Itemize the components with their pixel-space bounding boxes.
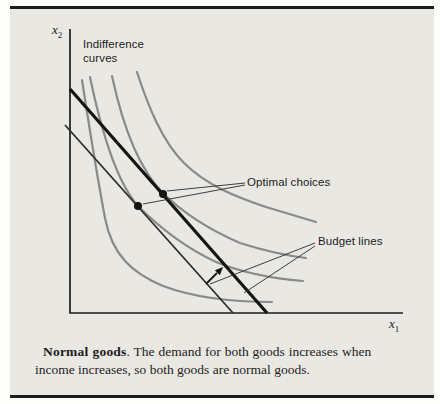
x-axis-label: x1 [389,316,399,332]
indifference-curve-3 [112,76,306,258]
caption-term: Normal goods [43,344,127,359]
indifference-curves-label: Indifference curves [83,38,144,65]
caption-line-2: income increases, so both goods are norm… [35,361,401,379]
optimal-choices-label: Optimal choices [247,176,330,190]
axes [70,29,403,313]
y-axis-label: x2 [52,22,62,38]
optimal-point-original [134,202,142,210]
figure-page: x2 x1 Indifference curves Optimal choice… [0,0,440,404]
budget-line-new [70,89,267,313]
shift-arrow [206,267,223,284]
indifference-curve-4 [137,72,316,222]
indifference-curve-1 [82,80,272,302]
budget-line-original [65,125,233,313]
optimal-point-new [159,190,167,198]
figure-caption: Normal goods. The demand for both goods … [35,343,401,379]
caption-line-1: Normal goods. The demand for both goods … [43,343,401,361]
budget-lines-label: Budget lines [318,235,383,249]
